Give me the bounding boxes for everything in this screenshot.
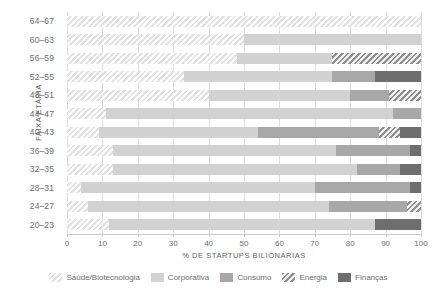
y-axis-tick-label: 28–31 [0,179,60,198]
bar-segment[interactable] [67,16,421,27]
x-axis-title: % DE STARTUPS BILIONÁRIAS [67,251,421,260]
x-axis-tick [244,234,245,237]
x-axis-tick-label: 40 [204,239,213,248]
y-axis-tick-label: 60–63 [0,31,60,50]
bar-segment[interactable] [389,90,421,101]
legend-label: Consumo [237,273,271,282]
y-axis-tick-labels: 64–6760–6356–5952–5548–5144–4740–4336–39… [0,12,60,234]
x-axis-tick-label: 70 [310,239,319,248]
bar-segment[interactable] [67,219,109,230]
stacked-bar[interactable] [67,145,421,156]
x-axis-tick [386,234,387,237]
x-axis-tick-label: 60 [275,239,284,248]
bar-segment[interactable] [336,145,410,156]
plot-area [67,12,421,234]
stacked-bar[interactable] [67,164,421,175]
bar-segment[interactable] [375,71,421,82]
bar-segment[interactable] [81,182,315,193]
bar-row [67,12,421,31]
stacked-bar[interactable] [67,34,421,45]
bar-segment[interactable] [67,145,113,156]
stacked-bar[interactable] [67,16,421,27]
bar-segment[interactable] [106,108,393,119]
y-axis-tick-label: 56–59 [0,49,60,68]
x-axis-tick [315,234,316,237]
bar-segment[interactable] [400,164,421,175]
bar-row [67,142,421,161]
x-axis-tick [67,234,68,237]
bar-segment[interactable] [375,219,421,230]
bar-segment[interactable] [332,71,374,82]
y-axis-tick-label: 44–47 [0,105,60,124]
legend-item[interactable]: Corporativa [151,273,209,282]
bar-segment[interactable] [67,182,81,193]
bar-segment[interactable] [329,201,407,212]
stacked-bar[interactable] [67,182,421,193]
x-axis-tick [279,234,280,237]
bar-segment[interactable] [184,71,333,82]
bar-segment[interactable] [407,201,421,212]
bar-row [67,160,421,179]
x-axis-tick-label: 50 [240,239,249,248]
legend-label: Saúde/Biotecnologia [66,273,139,282]
legend-item[interactable]: Finanças [338,273,387,282]
bar-segment[interactable] [258,127,378,138]
bar-row [67,86,421,105]
bar-segment[interactable] [67,90,209,101]
y-axis-tick-label: 64–67 [0,12,60,31]
stacked-bar[interactable] [67,71,421,82]
y-axis-tick-label: 24–27 [0,197,60,216]
x-axis-tick-label: 80 [346,239,355,248]
legend-swatch [338,273,351,282]
bar-segment[interactable] [244,34,421,45]
x-axis-tick-label: 90 [381,239,390,248]
bar-segment[interactable] [410,182,421,193]
stacked-bar[interactable] [67,219,421,230]
legend-item[interactable]: Saúde/Biotecnologia [49,273,139,282]
stacked-bar[interactable] [67,108,421,119]
bar-segment[interactable] [400,127,421,138]
bar-segment[interactable] [67,201,88,212]
bar-segment[interactable] [67,108,106,119]
bar-row [67,49,421,68]
bar-segment[interactable] [67,34,244,45]
bar-segment[interactable] [237,53,333,64]
y-axis-tick-label: 20–23 [0,216,60,235]
bar-segment[interactable] [67,71,184,82]
x-axis-tick [138,234,139,237]
legend-swatch [151,273,164,282]
bar-segment[interactable] [393,108,421,119]
bar-segment[interactable] [379,127,400,138]
bar-segment[interactable] [113,164,357,175]
bar-row [67,105,421,124]
legend-item[interactable]: Consumo [220,273,271,282]
bar-segment[interactable] [332,53,421,64]
bar-row [67,31,421,50]
bar-segment[interactable] [67,164,113,175]
bar-segment[interactable] [357,164,399,175]
bar-segment[interactable] [410,145,421,156]
bar-segment[interactable] [315,182,411,193]
stacked-bar[interactable] [67,201,421,212]
bar-segment[interactable] [109,219,375,230]
x-axis-tick [350,234,351,237]
stacked-bar[interactable] [67,127,421,138]
bar-segment[interactable] [88,201,329,212]
x-axis-tick-label: 30 [169,239,178,248]
bar-segment[interactable] [67,53,237,64]
bar-segment[interactable] [99,127,258,138]
x-axis-tick-label: 0 [65,239,69,248]
bar-segment[interactable] [350,90,389,101]
stacked-bar[interactable] [67,90,421,101]
legend-swatch [49,273,62,282]
x-axis-tick-label: 10 [98,239,107,248]
bar-segment[interactable] [209,90,351,101]
y-axis-tick-label: 48–51 [0,86,60,105]
bar-segment[interactable] [113,145,336,156]
legend-item[interactable]: Energia [282,273,327,282]
gridline [421,12,422,234]
bar-segment[interactable] [67,127,99,138]
x-axis-tick-label: 100 [414,239,427,248]
y-axis-tick-label: 36–39 [0,142,60,161]
stacked-bar[interactable] [67,53,421,64]
